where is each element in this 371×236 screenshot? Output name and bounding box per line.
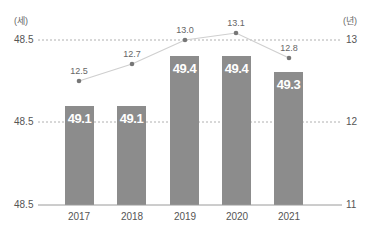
x-tick-2020: 2020 (217, 211, 257, 222)
line-series (0, 0, 371, 236)
x-tick-2017: 2017 (59, 211, 99, 222)
line-value-2017: 12.5 (64, 66, 94, 76)
x-tick-2019: 2019 (165, 211, 205, 222)
line-value-2018: 12.7 (117, 49, 147, 59)
line-value-2020: 13.1 (221, 18, 251, 28)
line-value-2021: 12.8 (274, 43, 304, 53)
x-tick-2021: 2021 (269, 211, 309, 222)
x-tick-2018: 2018 (112, 211, 152, 222)
line-value-2019: 13.0 (170, 25, 200, 35)
